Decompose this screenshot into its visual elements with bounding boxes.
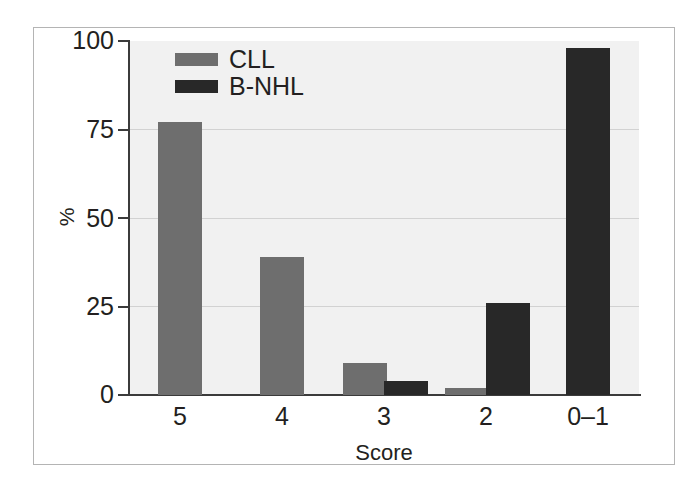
y-tick-labels: 100 75 50 25 0 (0, 0, 114, 493)
x-tick-label-5: 5 (129, 404, 231, 429)
y-tick-label-100: 100 (14, 28, 114, 53)
y-tick-label-0: 0 (14, 382, 114, 407)
bar-cll-4 (260, 257, 304, 395)
legend: CLL B-NHL (175, 47, 304, 101)
legend-item-bnhl: B-NHL (175, 74, 304, 98)
legend-label-bnhl: B-NHL (229, 74, 304, 99)
legend-swatch-cll-icon (175, 53, 218, 66)
x-axis-title: Score (129, 440, 639, 466)
y-tick-mark-100 (118, 40, 129, 42)
x-tick-label-3: 3 (333, 404, 435, 429)
y-tick-label-25: 25 (14, 294, 114, 319)
legend-item-cll: CLL (175, 47, 304, 71)
x-tick-label-2: 2 (435, 404, 537, 429)
y-tick-mark-25 (118, 306, 129, 308)
figure: 100 75 50 25 0 % 5 4 3 2 0–1 Score CLL B… (0, 0, 696, 493)
y-tick-mark-50 (118, 217, 129, 219)
bar-bnhl-2 (486, 303, 530, 395)
y-tick-mark-75 (118, 129, 129, 131)
bar-bnhl-3 (384, 381, 428, 395)
y-tick-mark-0 (118, 394, 129, 396)
y-axis-title: % (55, 208, 79, 227)
bar-bnhl-0-1 (566, 48, 610, 395)
x-tick-label-4: 4 (231, 404, 333, 429)
x-tick-label-0-1: 0–1 (537, 404, 639, 429)
bar-cll-2 (445, 388, 489, 395)
y-tick-label-75: 75 (14, 117, 114, 142)
legend-label-cll: CLL (229, 47, 275, 72)
legend-swatch-bnhl-icon (175, 80, 218, 93)
bar-cll-5 (158, 122, 202, 395)
bar-cll-3 (343, 363, 387, 395)
